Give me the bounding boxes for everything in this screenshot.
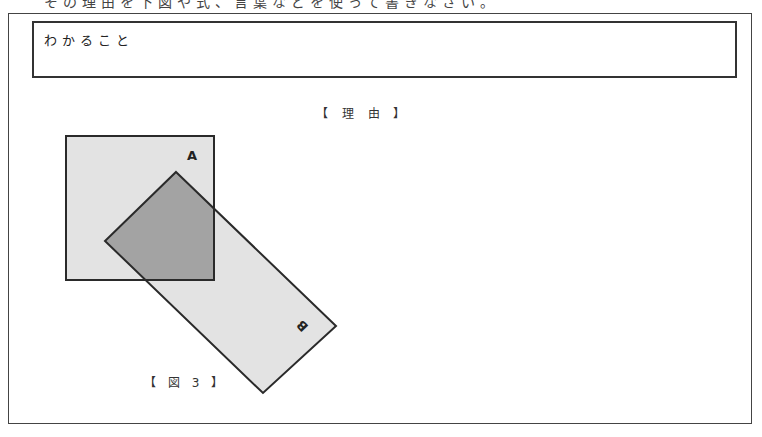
figure-3-diagram: A B: [0, 0, 762, 437]
figure-caption: 【 図 3 】: [144, 373, 227, 390]
label-a: A: [187, 148, 197, 163]
